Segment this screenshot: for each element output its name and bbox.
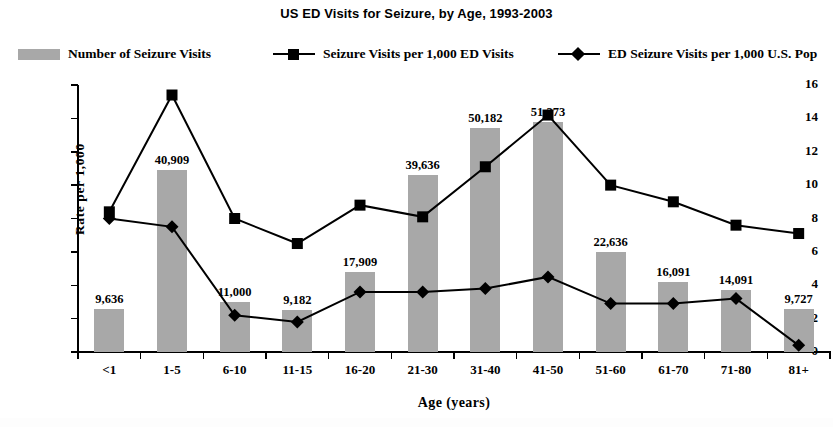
line-square-icon: [273, 48, 315, 60]
y-tick: [71, 184, 78, 186]
x-tick: [77, 352, 79, 359]
series-marker-square: [229, 213, 240, 224]
x-tick-label: 61-70: [642, 362, 705, 378]
legend-item-square-series: Seizure Visits per 1,000 ED Visits: [273, 44, 514, 64]
chart-title: US ED Visits for Seizure, by Age, 1993-2…: [0, 6, 833, 21]
legend-label-square-series: Seizure Visits per 1,000 ED Visits: [323, 46, 514, 62]
series-marker-square: [668, 196, 679, 207]
legend-item-diamond-series: ED Seizure Visits per 1,000 U.S. Pop: [558, 44, 817, 64]
series-marker-square: [480, 161, 491, 172]
chart-container: US ED Visits for Seizure, by Age, 1993-2…: [0, 0, 833, 427]
x-tick-label: <1: [78, 362, 141, 378]
series-marker-square: [417, 211, 428, 222]
x-tick-label: 41-50: [517, 362, 580, 378]
x-tick: [391, 352, 393, 359]
legend-label-diamond-series: ED Seizure Visits per 1,000 U.S. Pop: [608, 46, 817, 62]
x-tick-label: 51-60: [579, 362, 642, 378]
series-marker-square: [731, 220, 742, 231]
series-marker-diamond: [416, 285, 429, 298]
x-tick-label: 1-5: [141, 362, 204, 378]
series-marker-diamond: [166, 220, 179, 233]
x-tick: [453, 352, 455, 359]
y-tick: [71, 318, 78, 320]
series-marker-square: [292, 238, 303, 249]
y-tick: [71, 151, 78, 153]
x-tick: [829, 352, 831, 359]
y-tick: [71, 251, 78, 253]
line-diamond-icon: [558, 48, 600, 60]
page-edge-artifact: [0, 418, 833, 427]
x-tick: [328, 352, 330, 359]
series-marker-diamond: [291, 315, 304, 328]
series-marker-diamond: [228, 309, 241, 322]
x-tick: [704, 352, 706, 359]
series-marker-square: [167, 90, 178, 101]
x-tick-label: 11-15: [266, 362, 329, 378]
series-marker-square: [605, 180, 616, 191]
series-marker-diamond: [479, 282, 492, 295]
series-line: [109, 219, 798, 346]
series-line: [109, 95, 798, 244]
x-tick-label: 16-20: [329, 362, 392, 378]
series-marker-diamond: [542, 270, 555, 283]
y-tick: [71, 285, 78, 287]
legend-item-bars: Number of Seizure Visits: [18, 44, 211, 64]
y-tick: [71, 218, 78, 220]
y-tick: [71, 84, 78, 86]
x-tick-label: 6-10: [203, 362, 266, 378]
chart-legend: Number of Seizure Visits Seizure Visits …: [18, 44, 818, 64]
series-marker-square: [543, 110, 554, 121]
series-marker-diamond: [354, 285, 367, 298]
series-marker-diamond: [667, 297, 680, 310]
x-tick: [265, 352, 267, 359]
x-tick: [579, 352, 581, 359]
x-tick: [516, 352, 518, 359]
x-axis-title: Age (years): [78, 395, 830, 411]
x-tick-label: 71-80: [705, 362, 768, 378]
line-series-group: [78, 85, 830, 352]
x-tick-label: 21-30: [391, 362, 454, 378]
series-marker-square: [793, 228, 804, 239]
legend-label-bars: Number of Seizure Visits: [68, 46, 211, 62]
x-tick-label: 31-40: [454, 362, 517, 378]
x-tick: [203, 352, 205, 359]
series-marker-diamond: [604, 297, 617, 310]
plot-area: Rate per 1,000 0246810121416 9,63640,909…: [78, 85, 830, 352]
x-tick-label: 81+: [767, 362, 830, 378]
x-tick: [767, 352, 769, 359]
y-tick: [71, 118, 78, 120]
x-tick: [641, 352, 643, 359]
x-tick: [140, 352, 142, 359]
series-marker-square: [355, 200, 366, 211]
bar-swatch-icon: [18, 49, 60, 60]
